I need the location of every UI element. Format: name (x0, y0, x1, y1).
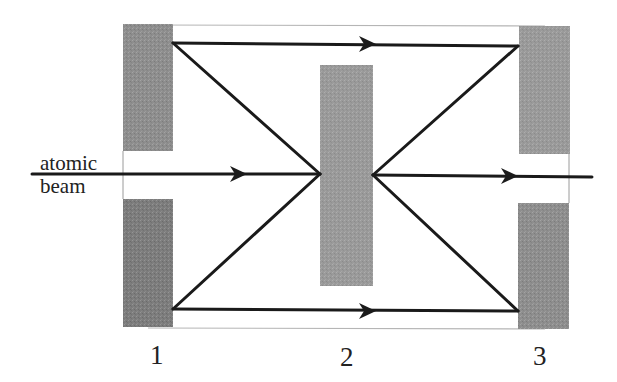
grating-3-top-plate (519, 26, 570, 154)
grating-1-bottom-plate (123, 199, 173, 327)
grating-3-bottom-plate (518, 203, 569, 329)
diagonal-2-to-3-top (373, 46, 518, 175)
grating-2 (320, 65, 373, 286)
outgoing-beam-line (373, 175, 592, 177)
diagonal-2-to-3-bottom (373, 175, 518, 311)
beam-label-beam: beam (40, 174, 85, 198)
grating-2-plate (320, 65, 373, 286)
atom-interferometer-diagram: atomic beam 1 2 3 (0, 0, 617, 382)
upper-path-line (173, 43, 518, 46)
grating-2-label: 2 (340, 342, 354, 372)
grating-3-label: 3 (533, 341, 547, 371)
diagonal-1-top-to-2 (173, 43, 320, 174)
grating-1-label: 1 (150, 340, 164, 370)
diagonal-1-bottom-to-2 (173, 174, 320, 309)
grating-1-top-plate (123, 24, 173, 151)
beam-label-atomic: atomic (40, 151, 97, 175)
lower-path-line (173, 309, 518, 311)
